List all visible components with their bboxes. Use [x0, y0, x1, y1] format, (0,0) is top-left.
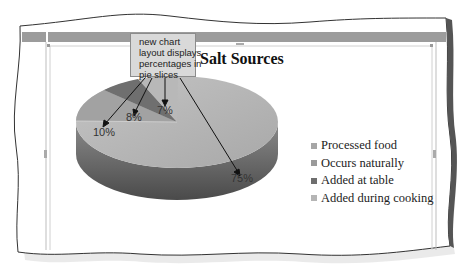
- callout-line: pie slices: [139, 69, 191, 80]
- legend-label: Added at table: [321, 173, 394, 188]
- legend-label: Added during cooking: [321, 191, 433, 206]
- data-label-added-during-cooking: 7%: [157, 104, 173, 116]
- legend-label: Occurs naturally: [321, 156, 404, 171]
- data-label-occurs-naturally: 10%: [93, 126, 115, 138]
- annotation-callout: new chart layout displays percentages in…: [130, 33, 196, 77]
- data-label-processed-food: 75%: [231, 172, 253, 184]
- legend-swatch-icon: [311, 195, 317, 201]
- legend-swatch-icon: [311, 143, 317, 149]
- callout-line: layout displays: [139, 47, 191, 58]
- data-label-added-at-table: 8%: [126, 111, 142, 123]
- legend-label: Processed food: [321, 138, 397, 153]
- legend-swatch-icon: [311, 160, 317, 166]
- legend-item-added-during-cooking: Added during cooking: [311, 190, 433, 208]
- chart-title: Salt Sources: [200, 50, 284, 68]
- legend-item-occurs-naturally: Occurs naturally: [311, 155, 433, 173]
- legend-swatch-icon: [311, 178, 317, 184]
- screenshot-stage: new chart layout displays percentages in…: [0, 0, 471, 276]
- callout-line: percentages in: [139, 58, 191, 69]
- callout-line: new chart: [139, 36, 191, 47]
- legend-item-processed-food: Processed food: [311, 137, 433, 155]
- legend-item-added-at-table: Added at table: [311, 172, 433, 190]
- chart-legend: Processed food Occurs naturally Added at…: [311, 137, 433, 207]
